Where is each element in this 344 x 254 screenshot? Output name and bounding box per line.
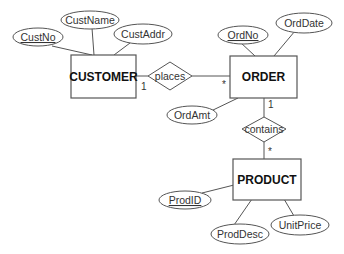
attribute-custno-label: CustNo	[20, 31, 55, 43]
line-ordamt	[211, 98, 238, 111]
attribute-custaddr-label: CustAddr	[121, 28, 165, 40]
relationship-contains[interactable]: contains	[242, 117, 286, 142]
attribute-custname[interactable]: CustName	[61, 11, 119, 29]
line-unitprice	[284, 199, 294, 216]
entity-product-label: PRODUCT	[237, 173, 297, 187]
attribute-orddate[interactable]: OrdDate	[276, 13, 332, 33]
entity-order[interactable]: ORDER	[230, 56, 297, 98]
cardinality-product-contains: *	[268, 146, 272, 157]
entity-order-label: ORDER	[242, 70, 286, 84]
attribute-ordno-label: OrdNo	[228, 29, 259, 41]
er-diagram: CUSTOMER ORDER PRODUCT places contains C…	[0, 0, 344, 254]
attribute-custno[interactable]: CustNo	[13, 28, 63, 46]
entity-customer[interactable]: CUSTOMER	[69, 55, 138, 98]
attribute-prodid[interactable]: ProdID	[159, 191, 211, 209]
attribute-custname-label: CustName	[65, 14, 115, 26]
attribute-ordamt-label: OrdAmt	[174, 109, 210, 121]
entity-customer-label: CUSTOMER	[69, 70, 138, 84]
line-proddesc	[234, 199, 252, 225]
line-custaddr	[114, 43, 130, 55]
attribute-ordamt[interactable]: OrdAmt	[167, 106, 217, 124]
line-custname	[92, 28, 94, 55]
attribute-custaddr[interactable]: CustAddr	[114, 24, 172, 44]
attribute-proddesc-label: ProdDesc	[217, 228, 263, 240]
cardinality-customer-places: 1	[141, 81, 147, 92]
line-prodid	[202, 185, 234, 193]
line-custno	[52, 46, 92, 55]
entity-product[interactable]: PRODUCT	[233, 159, 301, 200]
cardinality-order-places: *	[222, 79, 226, 90]
attribute-ordno[interactable]: OrdNo	[218, 26, 268, 44]
relationship-contains-label: contains	[244, 123, 283, 135]
attribute-prodid-label: ProdID	[169, 194, 202, 206]
line-orddate	[274, 31, 295, 56]
attribute-orddate-label: OrdDate	[284, 17, 324, 29]
attribute-unitprice-label: UnitPrice	[279, 219, 322, 231]
attribute-proddesc[interactable]: ProdDesc	[211, 224, 269, 244]
relationship-places-label: places	[155, 70, 185, 82]
attribute-unitprice[interactable]: UnitPrice	[271, 215, 329, 235]
cardinality-order-contains: 1	[268, 99, 274, 110]
relationship-places[interactable]: places	[148, 62, 192, 90]
